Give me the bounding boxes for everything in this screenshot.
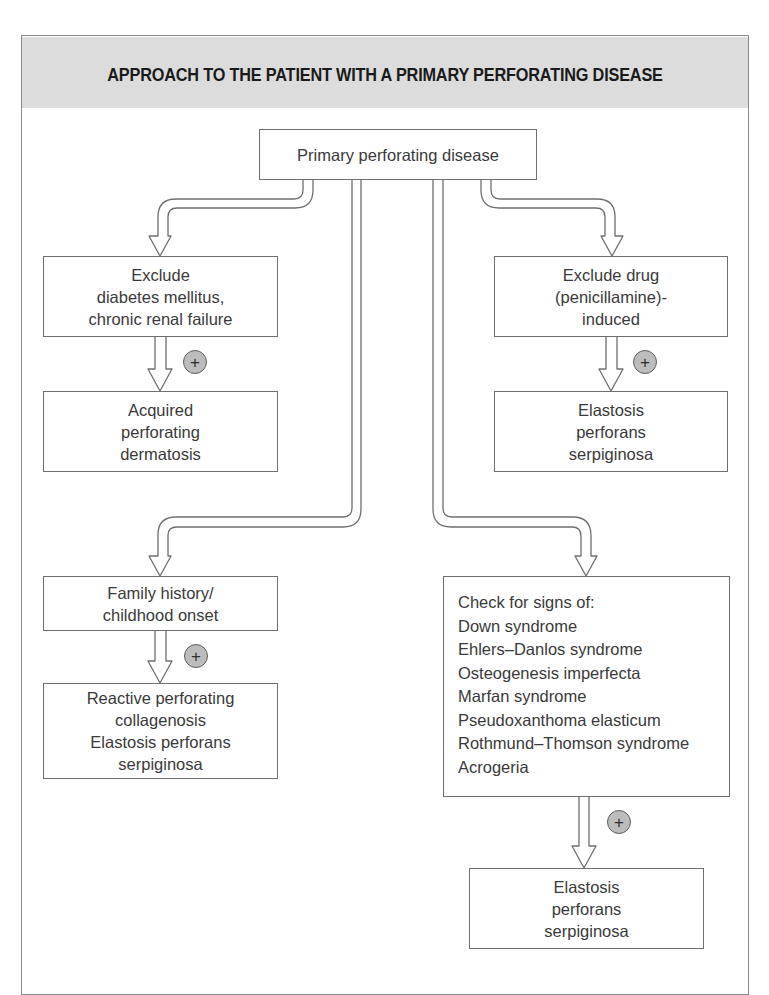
- node-exclude-diabetes-renal: Exclude diabetes mellitus, chronic renal…: [43, 256, 278, 337]
- node-text: Pseudoxanthoma elasticum: [458, 709, 661, 733]
- node-check-for-signs: Check for signs of: Down syndrome Ehlers…: [443, 576, 730, 797]
- node-text: induced: [582, 308, 640, 330]
- plus-circle-icon: +: [183, 350, 207, 374]
- node-text: dermatosis: [120, 443, 201, 465]
- plus-circle-icon: +: [607, 810, 631, 834]
- node-elastosis-perforans-serpiginosa-upper: Elastosis perforans serpiginosa: [494, 391, 728, 472]
- node-text: Family history/: [107, 582, 213, 604]
- node-text: serpiginosa: [569, 443, 653, 465]
- node-text: (penicillamine)-: [555, 286, 667, 308]
- node-primary-perforating-disease: Primary perforating disease: [259, 129, 537, 180]
- node-reactive-perforating-collagenosis: Reactive perforating collagenosis Elasto…: [43, 683, 278, 779]
- node-text: Exclude drug: [563, 264, 659, 286]
- down-arrow-icon: [599, 336, 623, 391]
- down-arrow-icon: [572, 796, 596, 868]
- node-text: Elastosis: [578, 399, 644, 421]
- node-text: Acquired: [128, 399, 193, 421]
- node-text: childhood onset: [103, 604, 219, 626]
- node-text: perforans: [552, 898, 622, 920]
- plus-circle-icon: +: [633, 350, 657, 374]
- down-arrow-icon: [148, 630, 172, 683]
- node-text: Elastosis: [553, 876, 619, 898]
- node-text: serpiginosa: [118, 753, 202, 775]
- pipe-arrow-icon: [433, 179, 597, 576]
- pipe-arrow-icon: [149, 179, 361, 576]
- node-acquired-perforating-dermatosis: Acquired perforating dermatosis: [43, 391, 278, 472]
- down-arrow-icon: [148, 336, 172, 391]
- plus-circle-icon: +: [184, 644, 208, 668]
- node-text: serpiginosa: [544, 920, 628, 942]
- node-text: Marfan syndrome: [458, 685, 586, 709]
- node-text: Ehlers–Danlos syndrome: [458, 638, 642, 662]
- pipe-arrow-icon: [481, 179, 623, 256]
- node-text: Acrogeria: [458, 756, 529, 780]
- node-text: Primary perforating disease: [297, 144, 499, 166]
- node-text: Elastosis perforans: [90, 731, 230, 753]
- node-text: perforating: [121, 421, 200, 443]
- node-text: chronic renal failure: [89, 308, 233, 330]
- node-elastosis-perforans-serpiginosa-lower: Elastosis perforans serpiginosa: [469, 868, 704, 949]
- node-text: perforans: [576, 421, 646, 443]
- node-text: Reactive perforating: [87, 687, 235, 709]
- pipe-arrow-icon: [149, 179, 313, 256]
- node-text: Rothmund–Thomson syndrome: [458, 732, 689, 756]
- node-text: Exclude: [131, 264, 190, 286]
- node-family-history-childhood-onset: Family history/ childhood onset: [43, 576, 278, 631]
- node-text: collagenosis: [115, 709, 206, 731]
- node-exclude-drug-induced: Exclude drug (penicillamine)- induced: [494, 256, 728, 337]
- node-text: Osteogenesis imperfecta: [458, 662, 641, 686]
- node-text: diabetes mellitus,: [97, 286, 224, 308]
- node-text: Down syndrome: [458, 615, 577, 639]
- node-text: Check for signs of:: [458, 591, 595, 615]
